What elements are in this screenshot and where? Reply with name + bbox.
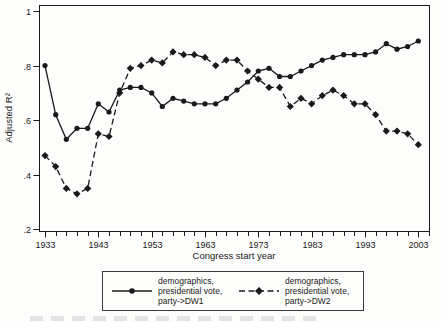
- data-point-diamond: [180, 51, 187, 58]
- data-point-diamond: [383, 128, 390, 135]
- data-point-diamond: [329, 87, 336, 94]
- legend: demographics, presidential vote, party->…: [102, 271, 364, 311]
- x-tick-label: 1953: [142, 240, 162, 250]
- y-tick-label: .2: [23, 225, 31, 235]
- data-point-diamond: [137, 62, 144, 69]
- data-point-diamond: [95, 130, 102, 137]
- series-dw1: [42, 38, 421, 141]
- data-point-diamond: [265, 84, 272, 91]
- data-point-diamond: [148, 57, 155, 64]
- y-tick-label: .8: [23, 62, 31, 72]
- y-tick-label: 1: [26, 7, 31, 17]
- data-point-circle: [181, 99, 186, 104]
- data-point-circle: [53, 112, 58, 117]
- data-point-circle: [373, 49, 378, 54]
- data-point-circle: [85, 126, 90, 131]
- data-point-circle: [320, 58, 325, 63]
- data-point-diamond: [212, 62, 219, 69]
- data-point-circle: [298, 68, 303, 73]
- x-tick-label: 2003: [408, 240, 428, 250]
- data-point-circle: [192, 101, 197, 106]
- figure: 1.8.6.4.21933194319531963197319831993200…: [0, 0, 442, 322]
- y-axis-title: Adjusted R²: [3, 93, 14, 143]
- cropped-caption-remnant: [30, 316, 320, 321]
- data-point-circle: [74, 126, 79, 131]
- solid-line-circle-marker-icon: [111, 285, 153, 297]
- x-tick-label: 1943: [88, 240, 108, 250]
- data-point-circle: [224, 96, 229, 101]
- data-point-circle: [245, 79, 250, 84]
- series-line: [45, 41, 418, 139]
- data-point-circle: [384, 41, 389, 46]
- data-point-diamond: [73, 190, 80, 197]
- x-tick-label: 1983: [302, 240, 322, 250]
- x-tick-label: 1993: [355, 240, 375, 250]
- data-point-diamond: [127, 65, 134, 72]
- data-point-circle: [266, 66, 271, 71]
- data-point-circle: [149, 90, 154, 95]
- data-point-diamond: [372, 111, 379, 118]
- x-tick-label: 1933: [35, 240, 55, 250]
- x-tick-label: 1963: [195, 240, 215, 250]
- x-axis: 19331943195319631973198319932003: [35, 232, 429, 250]
- series-line: [45, 52, 418, 194]
- data-point-circle: [213, 101, 218, 106]
- data-point-circle: [330, 55, 335, 60]
- data-point-circle: [394, 47, 399, 52]
- data-point-circle: [64, 137, 69, 142]
- data-point-circle: [202, 101, 207, 106]
- y-axis: 1.8.6.4.2: [23, 7, 39, 235]
- data-point-circle: [352, 52, 357, 57]
- data-point-diamond: [276, 84, 283, 91]
- data-point-circle: [128, 85, 133, 90]
- x-tick-label: 1973: [248, 240, 268, 250]
- data-point-diamond: [287, 103, 294, 110]
- data-point-circle: [288, 74, 293, 79]
- data-point-diamond: [191, 51, 198, 58]
- data-point-circle: [170, 96, 175, 101]
- data-point-circle: [106, 109, 111, 114]
- data-point-diamond: [393, 128, 400, 135]
- data-point-circle: [138, 85, 143, 90]
- series-dw2: [41, 48, 422, 197]
- line-chart: 1.8.6.4.21933194319531963197319831993200…: [0, 0, 442, 266]
- data-point-circle: [341, 52, 346, 57]
- data-point-diamond: [415, 141, 422, 148]
- data-point-diamond: [63, 185, 70, 192]
- legend-label-dw2: demographics, presidential vote, party->…: [285, 276, 351, 306]
- plot-frame: [40, 6, 430, 232]
- data-point-circle: [234, 88, 239, 93]
- data-point-diamond: [244, 67, 251, 74]
- y-tick-label: .6: [23, 116, 31, 126]
- legend-entry-dw1: demographics, presidential vote, party->…: [111, 276, 224, 306]
- data-point-circle: [160, 104, 165, 109]
- legend-label-dw1: demographics, presidential vote, party->…: [158, 276, 224, 306]
- data-point-circle: [309, 63, 314, 68]
- data-point-circle: [96, 101, 101, 106]
- data-point-circle: [277, 74, 282, 79]
- dashed-line-diamond-marker-icon: [238, 285, 280, 297]
- data-point-diamond: [223, 57, 230, 64]
- data-point-circle: [42, 63, 47, 68]
- x-axis-title: Congress start year: [193, 250, 276, 261]
- data-point-diamond: [105, 133, 112, 140]
- y-tick-label: .4: [23, 171, 31, 181]
- legend-entry-dw2: demographics, presidential vote, party->…: [238, 276, 351, 306]
- data-point-circle: [416, 38, 421, 43]
- data-point-diamond: [84, 185, 91, 192]
- data-point-circle: [405, 44, 410, 49]
- data-point-circle: [256, 68, 261, 73]
- data-point-circle: [362, 52, 367, 57]
